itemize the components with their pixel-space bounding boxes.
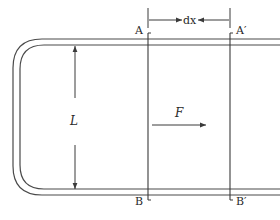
frame-inner-wire [20,45,280,189]
label-f: F [174,106,184,120]
segment-a-prime-b-prime [230,33,233,200]
segment-ab [148,33,151,200]
label-b-prime: B′ [236,195,247,208]
frame-diagram: A A′ B B′ dx L F [0,0,280,220]
label-a: A [134,24,144,37]
label-b: B [135,195,143,208]
frame-outer-wire [13,39,280,195]
label-dx: dx [183,14,197,27]
label-l: L [69,114,78,128]
label-a-prime: A′ [235,24,247,37]
